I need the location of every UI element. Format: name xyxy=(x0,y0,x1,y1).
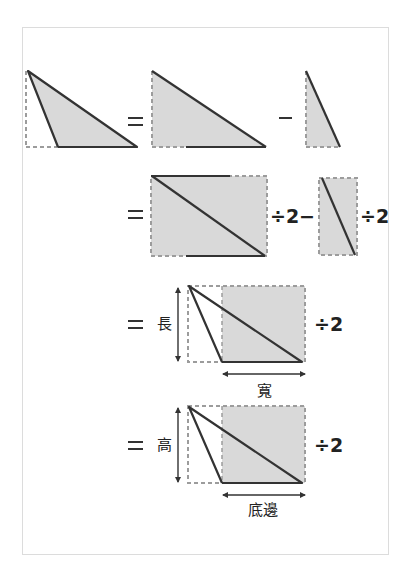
row3-length-label: 長 xyxy=(157,317,172,332)
row1-equals-icon xyxy=(128,118,143,125)
row4-base-label: 底邊 xyxy=(248,503,278,518)
row2-minus-sign: − xyxy=(299,207,315,226)
row2-divide-by-two-2: ÷2 xyxy=(360,207,389,226)
row3-equals-icon xyxy=(128,321,143,328)
row4-triangle-rectangle xyxy=(188,406,305,483)
row3-width-label: 寬 xyxy=(257,384,272,399)
triangle-area-diagram xyxy=(0,0,415,578)
row4-divide-by-two: ÷2 xyxy=(314,436,343,455)
row4-equals-icon xyxy=(128,442,143,449)
row2-divide-by-two-1: ÷2 xyxy=(270,207,299,226)
row3-triangle-rectangle xyxy=(188,286,305,362)
row3-divide-by-two: ÷2 xyxy=(314,315,343,334)
row1-small-right-triangle xyxy=(306,71,340,147)
row2-equals-icon xyxy=(128,211,143,218)
row1-obtuse-triangle xyxy=(26,71,137,147)
row4-height-label: 高 xyxy=(157,438,172,453)
row1-large-right-triangle xyxy=(152,71,266,147)
row2-large-rectangle xyxy=(151,176,267,256)
row2-small-rectangle xyxy=(319,178,357,255)
